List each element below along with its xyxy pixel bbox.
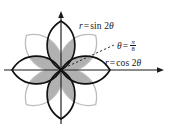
fraction-numerator: π	[131, 39, 136, 46]
label-theta-equals-pi-over-8: θ= π 8	[117, 39, 136, 54]
y-axis-arrowhead	[58, 11, 64, 18]
fraction-denominator: 8	[131, 46, 136, 53]
rose-curve-plot	[0, 0, 169, 132]
x-axis-arrowhead	[157, 67, 164, 73]
label-r-cos-2theta: r=cos 2θ	[105, 59, 141, 69]
label-theta-equals: =	[122, 42, 129, 52]
label-sin-expression: sin 2	[90, 21, 109, 31]
label-sin-theta: θ	[109, 21, 114, 31]
label-cos-expression: cos 2	[116, 58, 136, 68]
label-cos-theta: θ	[137, 58, 142, 68]
label-r-sin-2theta: r=sin 2θ	[79, 22, 114, 32]
polar-rose-figure: r=sin 2θ θ= π 8 r=cos 2θ	[0, 0, 169, 132]
fraction-pi-over-8: π 8	[130, 39, 136, 54]
